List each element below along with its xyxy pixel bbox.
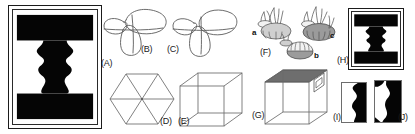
mushroom-a <box>258 8 291 39</box>
sublabel-mushroom-b: b <box>314 52 319 60</box>
label-panel-f: (F) <box>260 48 271 57</box>
panel-h-inner-frame <box>351 11 401 67</box>
panel-a-inner-frame <box>12 9 98 125</box>
label-panel-a: (A) <box>101 59 112 68</box>
rubin-vase-large-art <box>13 10 97 124</box>
label-panel-i: (I) <box>333 113 341 122</box>
label-panel-b: (B) <box>141 45 152 54</box>
panel-vase-fragment-left <box>341 82 367 123</box>
panel-rubin-vase-small <box>348 8 404 70</box>
panel-shaded-cube <box>258 68 334 128</box>
label-panel-h: (H) <box>337 56 349 65</box>
label-panel-d: (D) <box>160 117 172 126</box>
label-panel-j: (J) <box>398 113 408 122</box>
label-panel-c: (C) <box>167 45 179 54</box>
trefoil-knot-b-art <box>102 6 170 58</box>
label-panel-g: (G) <box>252 111 264 120</box>
sublabel-mushroom-c: c <box>330 32 334 40</box>
panel-trefoil-knot-b <box>102 6 170 58</box>
sublabel-mushroom-a: a <box>252 29 256 37</box>
figure-canvas: (A) (B) (C) (D) <box>0 0 415 134</box>
panel-rubin-vase-large <box>8 5 102 129</box>
vase-fragment-left-art <box>342 83 366 122</box>
label-panel-e: (E) <box>178 117 189 126</box>
shaded-cube-art <box>258 68 334 128</box>
rubin-vase-small-art <box>352 12 400 66</box>
